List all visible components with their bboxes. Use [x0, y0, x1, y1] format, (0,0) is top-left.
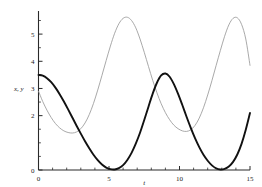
x-tick-label: 10: [176, 175, 184, 183]
data-curves-group: [39, 17, 251, 169]
y-tick-label: 5: [31, 31, 35, 39]
y-tick-label: 4: [31, 58, 35, 66]
plot-canvas: 05101502345 tx, y: [0, 0, 262, 187]
axes-group: [39, 11, 251, 170]
x-axis-title: t: [143, 179, 146, 187]
tick-labels-group: 05101502345: [31, 31, 254, 183]
x-tick-label: 15: [247, 175, 255, 183]
tick-marks-group: [39, 21, 251, 170]
y-tick-label: 0: [31, 167, 35, 175]
chart-figure: 05101502345 tx, y: [0, 0, 262, 187]
x-tick-label: 0: [37, 175, 41, 183]
y-tick-label: 3: [31, 85, 35, 93]
y-axis-title: x, y: [13, 85, 25, 93]
data-curve-x: [39, 73, 251, 169]
data-curve-y: [39, 17, 251, 133]
y-tick-label: 2: [31, 112, 35, 120]
x-tick-label: 5: [107, 175, 111, 183]
